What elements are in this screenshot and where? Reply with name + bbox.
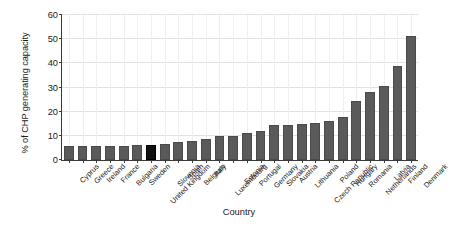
y-axis-tick-label: 60 bbox=[48, 10, 58, 20]
bar bbox=[393, 66, 403, 160]
bar bbox=[310, 123, 320, 160]
bar bbox=[215, 136, 225, 160]
bar bbox=[365, 92, 375, 160]
bar bbox=[269, 125, 279, 160]
bar bbox=[119, 146, 129, 161]
y-axis-title: % of CHP generating capacity bbox=[20, 8, 30, 178]
x-axis-title: Country bbox=[61, 207, 417, 217]
bar bbox=[283, 125, 293, 160]
y-axis-tick-label: 20 bbox=[48, 107, 58, 117]
bar bbox=[201, 139, 211, 160]
bar bbox=[91, 146, 101, 160]
bar bbox=[242, 133, 252, 160]
bar bbox=[78, 146, 88, 160]
bar bbox=[406, 36, 416, 160]
bar bbox=[146, 145, 156, 160]
bar bbox=[187, 141, 197, 160]
y-axis-tick-label: 10 bbox=[48, 131, 58, 141]
bar bbox=[324, 121, 334, 160]
bar bbox=[256, 131, 266, 160]
bar bbox=[132, 145, 142, 160]
bar bbox=[338, 117, 348, 161]
y-axis-tick-label: 30 bbox=[48, 83, 58, 93]
bar bbox=[228, 136, 238, 160]
bar bbox=[379, 86, 389, 160]
bar-series bbox=[62, 15, 418, 160]
bar bbox=[173, 142, 183, 160]
bar bbox=[351, 101, 361, 160]
bar bbox=[64, 146, 74, 160]
y-axis-tick-label: 50 bbox=[48, 34, 58, 44]
bar bbox=[160, 144, 170, 160]
y-axis-tick-label: 0 bbox=[53, 155, 58, 165]
bar bbox=[297, 124, 307, 160]
y-axis-tick-labels: 0102030405060 bbox=[30, 0, 58, 234]
y-axis-tick-label: 40 bbox=[48, 58, 58, 68]
bar bbox=[105, 146, 115, 160]
plot-area bbox=[61, 15, 418, 161]
